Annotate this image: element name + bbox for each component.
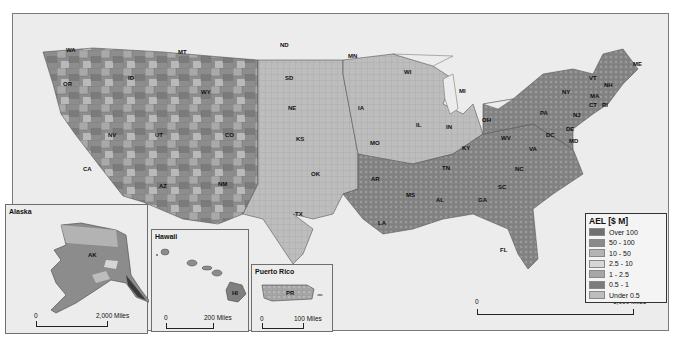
svg-text:PA: PA (540, 110, 549, 116)
svg-text:OK: OK (311, 171, 321, 177)
svg-text:MA: MA (590, 93, 600, 99)
svg-text:IL: IL (416, 122, 422, 128)
svg-text:NY: NY (562, 89, 570, 95)
svg-text:NH: NH (604, 82, 613, 88)
legend-label: Over 100 (609, 229, 638, 236)
svg-text:NV: NV (108, 132, 116, 138)
svg-text:DC: DC (546, 132, 555, 138)
legend-item: 10 - 50 (589, 248, 663, 259)
puerto-rico-scalebar-label: 100 Miles (294, 315, 322, 322)
svg-text:DE: DE (566, 126, 574, 132)
svg-text:IN: IN (446, 124, 452, 130)
svg-text:NC: NC (515, 166, 524, 172)
alaska-scalebar-label: 2,000 Miles (96, 312, 129, 319)
legend-swatch (589, 249, 605, 257)
svg-text:WA: WA (66, 47, 76, 53)
svg-text:AL: AL (436, 197, 444, 203)
legend-item: 0.5 - 1 (589, 280, 663, 291)
legend-label: 1 - 2.5 (609, 271, 629, 278)
hawaii-scalebar-line (166, 323, 214, 329)
legend-swatch (589, 281, 605, 289)
inset-puerto-rico: Puerto Rico PR 0 100 Miles (251, 264, 333, 332)
svg-text:SD: SD (285, 75, 294, 81)
svg-text:ME: ME (633, 61, 642, 67)
svg-text:ND: ND (280, 42, 289, 48)
map-frame: WA OR CA ID NV MT WY UT AZ CO NM ND SD N… (12, 13, 669, 331)
puerto-rico-scalebar: 0 100 Miles (260, 315, 335, 331)
svg-text:AK: AK (88, 252, 97, 258)
svg-text:WV: WV (501, 135, 511, 141)
inset-hawaii: Hawaii HI 0 200 Miles (151, 229, 249, 332)
svg-text:KY: KY (462, 145, 470, 151)
legend-swatch (589, 228, 605, 236)
svg-text:MT: MT (178, 49, 187, 55)
svg-text:IA: IA (358, 105, 365, 111)
legend-swatch (589, 239, 605, 247)
svg-text:MN: MN (348, 53, 357, 59)
legend-label: 0.5 - 1 (609, 281, 629, 288)
legend-swatch (589, 260, 605, 268)
hawaii-scalebar: 0 200 Miles (164, 314, 249, 332)
svg-text:LA: LA (378, 220, 387, 226)
main-scalebar-zero: 0 (475, 298, 479, 305)
svg-text:MS: MS (406, 192, 415, 198)
svg-text:AZ: AZ (159, 183, 167, 189)
legend-label: 2.5 - 10 (609, 260, 633, 267)
svg-text:OH: OH (482, 117, 491, 123)
main-scalebar-line (477, 309, 634, 315)
inset-alaska: Alaska AK 0 2,000 Miles (5, 204, 148, 334)
svg-text:WY: WY (201, 89, 211, 95)
svg-text:MD: MD (569, 138, 579, 144)
legend-swatch (589, 291, 605, 299)
puerto-rico-scalebar-zero: 0 (260, 315, 264, 322)
svg-text:TN: TN (442, 165, 450, 171)
svg-text:TX: TX (295, 211, 303, 217)
svg-text:MO: MO (370, 140, 380, 146)
legend-item: Over 100 (589, 227, 663, 238)
svg-text:NM: NM (218, 181, 227, 187)
svg-text:KS: KS (296, 136, 304, 142)
svg-text:CT: CT (589, 102, 597, 108)
svg-text:WI: WI (404, 69, 412, 75)
region-plains (243, 60, 358, 264)
svg-text:NE: NE (288, 105, 296, 111)
hawaii-scalebar-label: 200 Miles (204, 314, 232, 321)
svg-text:SC: SC (498, 184, 507, 190)
svg-text:GA: GA (478, 197, 488, 203)
svg-text:RI: RI (602, 102, 608, 108)
legend-item: Under 0.5 (589, 290, 663, 301)
alaska-scalebar-line (36, 321, 108, 327)
alaska-scalebar-zero: 0 (34, 312, 38, 319)
svg-text:HI: HI (232, 290, 238, 296)
legend-title: AEL [$ M] (589, 216, 663, 226)
svg-text:VT: VT (589, 75, 597, 81)
svg-text:NJ: NJ (573, 112, 581, 118)
legend-item: 1 - 2.5 (589, 269, 663, 280)
legend-label: Under 0.5 (609, 292, 640, 299)
legend-item: 2.5 - 10 (589, 259, 663, 270)
svg-text:UT: UT (155, 132, 163, 138)
legend-label: 10 - 50 (609, 250, 631, 257)
svg-text:MI: MI (459, 88, 466, 94)
legend-swatch (589, 270, 605, 278)
svg-text:CO: CO (225, 132, 234, 138)
svg-text:CA: CA (83, 166, 92, 172)
legend-label: 50 - 100 (609, 239, 635, 246)
svg-text:OR: OR (63, 81, 73, 87)
svg-text:VA: VA (529, 146, 538, 152)
svg-text:PR: PR (286, 290, 295, 296)
legend: AEL [$ M] Over 100 50 - 100 10 - 50 2.5 … (585, 213, 667, 303)
legend-item: 50 - 100 (589, 238, 663, 249)
hawaii-scalebar-zero: 0 (164, 314, 168, 321)
alaska-scalebar: 0 2,000 Miles (34, 312, 144, 334)
svg-text:ID: ID (128, 75, 135, 81)
svg-text:AR: AR (371, 176, 380, 182)
puerto-rico-scalebar-line (262, 323, 304, 329)
svg-text:FL: FL (500, 247, 508, 253)
